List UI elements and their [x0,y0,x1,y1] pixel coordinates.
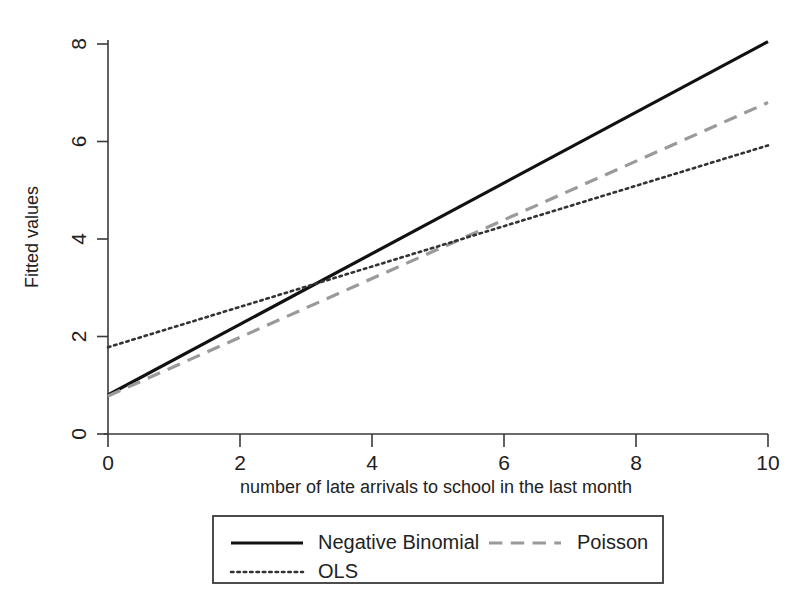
x-tick-label: 0 [102,451,114,474]
chart-figure: 02468 0246810 Fitted values number of la… [0,0,806,608]
x-axis-ticks: 0246810 [102,434,780,474]
series-line-poisson [108,103,768,396]
chart-canvas: 02468 0246810 Fitted values number of la… [0,0,806,608]
legend-label-poisson: Poisson [577,531,648,553]
y-tick-label: 8 [67,38,90,50]
x-tick-label: 8 [630,451,642,474]
legend-label-negative-binomial: Negative Binomial [318,531,479,553]
x-tick-label: 2 [234,451,246,474]
series-line-negative-binomial [108,42,768,395]
legend-label-ols: OLS [318,560,358,582]
series-line-ols [108,145,768,347]
y-tick-label: 0 [67,428,90,440]
chart-legend: Negative BinomialPoissonOLS [213,516,663,583]
y-axis-title: Fitted values [22,186,42,288]
y-tick-label: 2 [67,331,90,343]
x-tick-label: 6 [498,451,510,474]
x-axis-title: number of late arrivals to school in the… [240,477,632,497]
x-tick-label: 4 [366,451,378,474]
y-tick-label: 4 [67,233,90,245]
x-tick-label: 10 [756,451,779,474]
y-axis-ticks: 02468 [67,38,109,440]
y-tick-label: 6 [67,136,90,148]
data-series-group [108,42,768,396]
